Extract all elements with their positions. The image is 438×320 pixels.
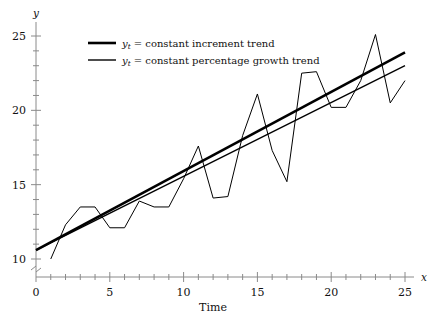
x-axis-name-label: x <box>421 271 427 283</box>
x-axis-title: Time <box>199 301 227 314</box>
x-tick-label: 20 <box>324 286 338 299</box>
chart-container: 10152025 0510152025 yt = constant increm… <box>0 0 438 320</box>
legend-description: constant increment trend <box>145 38 275 49</box>
chart-plot: 10152025 0510152025 yt = constant increm… <box>0 0 438 320</box>
legend-equals: = <box>131 55 146 66</box>
x-tick-label: 10 <box>177 286 191 299</box>
y-tick-label: 15 <box>12 179 26 192</box>
legend-description: constant percentage growth trend <box>145 55 320 66</box>
x-tick-label: 15 <box>250 286 264 299</box>
x-tick-label: 5 <box>106 286 113 299</box>
x-tick-label: 0 <box>33 286 40 299</box>
y-tick-label: 25 <box>12 30 26 43</box>
legend-equals: = <box>131 38 146 49</box>
y-tick-label: 20 <box>12 104 26 117</box>
y-axis-name-label: y <box>32 7 40 19</box>
x-tick-label: 25 <box>398 286 412 299</box>
y-tick-label: 10 <box>12 253 26 266</box>
